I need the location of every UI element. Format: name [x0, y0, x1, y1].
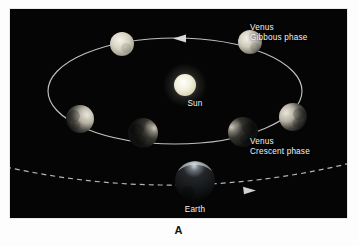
venus-quarter-left [66, 105, 94, 133]
sky-panel: Venus Gibbous phase Venus Crescent phase… [10, 9, 347, 218]
venus-crescent-label-line2: Crescent phase [250, 147, 310, 157]
figure-caption: A [10, 224, 347, 236]
venus-crescent-label: Venus Crescent phase [250, 137, 310, 157]
earth-body [175, 161, 215, 201]
venus-gibbous-label: Venus Gibbous phase [250, 23, 307, 43]
sun-body [174, 74, 196, 96]
earth-label: Earth [173, 205, 217, 215]
venus-gibbous-label-line1: Venus [250, 23, 307, 33]
venus-crescent-left [128, 118, 158, 148]
venus-quarter-right [279, 103, 307, 131]
sun-label: Sun [178, 99, 212, 109]
figure-root: Venus Gibbous phase Venus Crescent phase… [0, 0, 359, 246]
earth-orbit-arrow [243, 187, 256, 194]
orbit-direction-arrow [173, 35, 186, 43]
venus-crescent-label-line1: Venus [250, 137, 310, 147]
venus-superior-left [110, 32, 134, 56]
venus-gibbous-label-line2: Gibbous phase [250, 33, 307, 43]
